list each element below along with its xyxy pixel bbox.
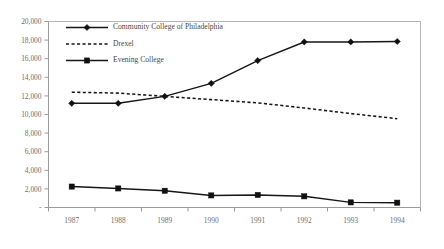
data-point-marker xyxy=(348,39,354,45)
data-point-marker xyxy=(301,39,307,45)
series-line xyxy=(72,92,398,119)
data-point-marker xyxy=(69,184,74,189)
legend-label: Evening College xyxy=(113,55,164,64)
series-3 xyxy=(69,184,400,205)
y-tick-label: 16,000 xyxy=(21,54,42,63)
x-tick-label: 1994 xyxy=(390,216,405,225)
data-point-marker xyxy=(209,193,214,198)
x-tick-label: 1993 xyxy=(343,216,358,225)
legend-entry-1: Community College of Philadelphia xyxy=(66,22,224,31)
y-tick-label: 20,000 xyxy=(21,17,42,26)
y-tick-label: 8,000 xyxy=(25,129,42,138)
x-tick-label: 1992 xyxy=(297,216,312,225)
x-tick-label: 1987 xyxy=(64,216,79,225)
data-point-marker xyxy=(84,58,89,63)
data-point-marker xyxy=(395,200,400,205)
y-tick-label: 2,000 xyxy=(25,185,42,194)
data-point-marker xyxy=(255,192,260,197)
series-2 xyxy=(72,92,398,119)
y-tick-label: 6,000 xyxy=(25,147,42,156)
y-tick-label: - xyxy=(39,203,42,212)
y-tick-label: 12,000 xyxy=(21,92,42,101)
y-axis-ticks: -2,0004,0006,0008,00010,00012,00014,0001… xyxy=(21,17,48,212)
legend-entry-2: Drexel xyxy=(66,39,134,48)
data-point-marker xyxy=(255,57,261,63)
x-tick-label: 1988 xyxy=(111,216,126,225)
y-tick-label: 4,000 xyxy=(25,166,42,175)
y-tick-label: 14,000 xyxy=(21,73,42,82)
data-point-marker xyxy=(394,38,400,44)
x-axis-ticks: 19871988198919901991199219931994 xyxy=(49,208,421,225)
x-tick-label: 1991 xyxy=(250,216,265,225)
x-tick-label: 1989 xyxy=(157,216,172,225)
data-point-marker xyxy=(208,80,214,86)
data-point-marker xyxy=(116,186,121,191)
line-chart: -2,0004,0006,0008,00010,00012,00014,0001… xyxy=(0,0,444,249)
legend-label: Community College of Philadelphia xyxy=(113,22,224,31)
legend-entry-3: Evening College xyxy=(66,55,164,64)
legend-label: Drexel xyxy=(113,39,134,48)
chart-container: -2,0004,0006,0008,00010,00012,00014,0001… xyxy=(0,0,444,249)
data-point-marker xyxy=(162,188,167,193)
data-point-marker xyxy=(302,194,307,199)
data-point-marker xyxy=(69,100,75,106)
y-tick-label: 10,000 xyxy=(21,110,42,119)
y-tick-label: 18,000 xyxy=(21,36,42,45)
data-point-marker xyxy=(348,200,353,205)
x-tick-label: 1990 xyxy=(204,216,219,225)
chart-legend: Community College of PhiladelphiaDrexelE… xyxy=(66,22,224,64)
data-point-marker xyxy=(115,100,121,106)
series-1 xyxy=(69,38,401,106)
series-line xyxy=(72,41,398,103)
data-point-marker xyxy=(84,24,90,30)
